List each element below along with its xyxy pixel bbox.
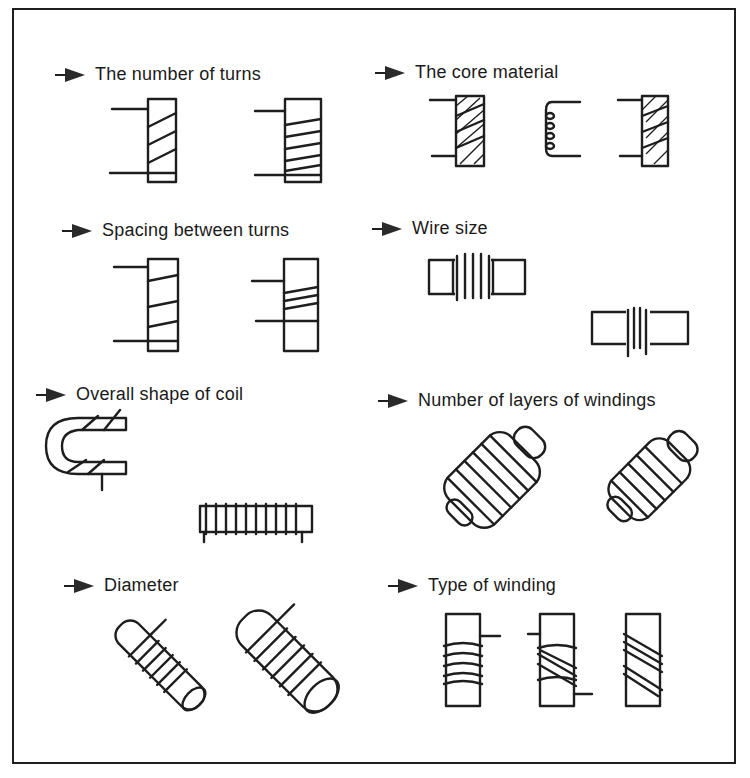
label-core-material: The core material (375, 62, 558, 83)
label-text: The number of turns (95, 64, 261, 85)
arrow-icon (64, 579, 96, 593)
label-text: Diameter (104, 575, 179, 596)
label-wire-size: Wire size (372, 218, 488, 239)
label-spacing-between-turns: Spacing between turns (62, 220, 289, 241)
coil-many-turns-icon (253, 95, 333, 185)
coil-thin-wire-icon (588, 302, 692, 362)
label-text: The core material (415, 62, 558, 83)
label-number-of-turns: The number of turns (55, 64, 261, 85)
arrow-icon (62, 224, 94, 238)
coil-air-core-icon (542, 98, 582, 160)
arrow-icon (378, 394, 410, 408)
coil-few-turns-icon (108, 95, 188, 185)
coil-u-shape-icon (42, 408, 132, 494)
arrow-icon (36, 388, 68, 402)
arrow-icon (55, 68, 87, 82)
coil-hatched-core-icon (428, 92, 498, 172)
label-text: Wire size (412, 218, 488, 239)
coil-ferrite-core-icon (616, 92, 676, 172)
arrow-icon (375, 66, 407, 80)
coil-tight-spacing-icon (250, 255, 330, 353)
coil-wide-spacing-icon (110, 255, 190, 353)
label-type-of-winding: Type of winding (388, 575, 556, 596)
coil-straight-long-icon (198, 500, 314, 544)
coil-large-diameter-icon (222, 596, 352, 726)
label-overall-shape: Overall shape of coil (36, 384, 243, 405)
label-text: Overall shape of coil (76, 384, 243, 405)
label-diameter: Diameter (64, 575, 179, 596)
winding-crossed-icon (526, 610, 596, 710)
coil-multi-layer-icon (432, 420, 562, 530)
label-text: Type of winding (428, 575, 556, 596)
arrow-icon (388, 579, 420, 593)
label-layers-of-windings: Number of layers of windings (378, 390, 656, 411)
arrow-icon (372, 222, 404, 236)
label-text: Spacing between turns (102, 220, 289, 241)
coil-single-layer-icon (590, 420, 720, 530)
winding-solenoid-icon (440, 610, 510, 710)
label-text: Number of layers of windings (418, 390, 656, 411)
winding-bank-icon (612, 610, 672, 710)
coil-small-diameter-icon (100, 605, 220, 725)
coil-thick-wire-icon (425, 250, 529, 310)
